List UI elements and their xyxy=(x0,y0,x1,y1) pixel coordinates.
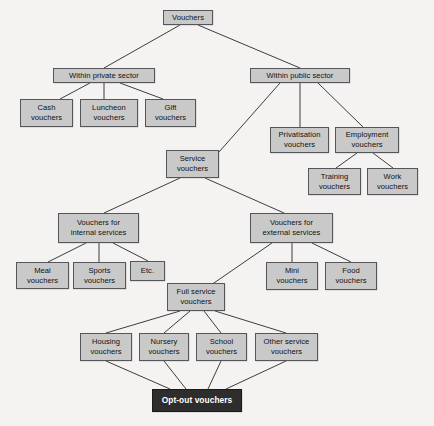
node-luncheon[interactable]: Luncheonvouchers xyxy=(80,99,138,127)
node-label-meal: Mealvouchers xyxy=(25,266,60,285)
edge-fullservice-to-housing xyxy=(106,311,180,333)
edge-service-to-external xyxy=(205,178,284,213)
edge-otherservice-to-optout xyxy=(226,361,286,389)
node-label-luncheon: Luncheonvouchers xyxy=(90,103,128,122)
node-fullservice[interactable]: Full servicevouchers xyxy=(167,283,225,311)
edge-housing-to-optout xyxy=(106,361,170,389)
node-meal[interactable]: Mealvouchers xyxy=(16,262,69,289)
node-food[interactable]: Foodvouchers xyxy=(325,262,377,290)
node-nursery[interactable]: Nurseryvouchers xyxy=(139,333,189,361)
node-label-otherservice: Other servicevouchers xyxy=(262,337,312,356)
node-mini[interactable]: Minivouchers xyxy=(266,262,318,290)
node-work[interactable]: Workvouchers xyxy=(367,168,418,195)
node-service[interactable]: Servicevouchers xyxy=(166,150,219,178)
edge-internal-to-etc xyxy=(113,243,148,261)
edge-employment-to-training xyxy=(336,153,357,168)
node-label-nursery: Nurseryvouchers xyxy=(146,337,181,356)
node-label-optout: Opt-out vouchers xyxy=(160,396,235,406)
node-label-public: Within public sector xyxy=(265,71,336,81)
node-label-housing: Housingvouchers xyxy=(88,337,123,356)
node-label-training: Trainingvouchers xyxy=(317,172,352,191)
edge-internal-to-meal xyxy=(48,243,86,262)
edge-private-to-cash xyxy=(60,83,90,99)
node-internal[interactable]: Vouchers forinternal services xyxy=(58,213,139,243)
diagram-canvas: VouchersWithin private sectorWithin publ… xyxy=(0,0,434,426)
node-label-food: Foodvouchers xyxy=(333,266,368,285)
edge-fullservice-to-nursery xyxy=(164,311,190,333)
node-privatisation[interactable]: Privatisationvouchers xyxy=(270,127,329,153)
edge-employment-to-work xyxy=(373,153,393,168)
node-employment[interactable]: Employmentvouchers xyxy=(335,127,399,153)
edge-school-to-optout xyxy=(208,361,221,389)
edge-private-to-gift xyxy=(120,83,163,99)
edge-fullservice-to-school xyxy=(204,311,221,333)
node-label-work: Workvouchers xyxy=(375,172,410,191)
node-public[interactable]: Within public sector xyxy=(250,68,350,83)
node-label-gift: Giftvouchers xyxy=(153,103,188,122)
node-label-service: Servicevouchers xyxy=(175,154,210,173)
edge-vouchers-to-public xyxy=(198,25,300,68)
edge-nursery-to-optout xyxy=(164,361,186,389)
node-housing[interactable]: Housingvouchers xyxy=(80,333,132,361)
node-label-mini: Minivouchers xyxy=(274,266,309,285)
node-training[interactable]: Trainingvouchers xyxy=(308,168,361,195)
node-label-school: Schoolvouchers xyxy=(204,337,239,356)
node-etc[interactable]: Etc. xyxy=(130,261,165,281)
node-cash[interactable]: Cashvouchers xyxy=(20,99,73,127)
node-label-employment: Employmentvouchers xyxy=(344,130,391,149)
node-label-vouchers: Vouchers xyxy=(170,13,206,23)
node-label-external: Vouchers forexternal services xyxy=(261,218,323,237)
node-label-cash: Cashvouchers xyxy=(29,103,64,122)
edge-service-to-internal xyxy=(104,178,180,213)
edge-external-to-fullservice xyxy=(211,243,272,285)
node-sports[interactable]: Sportsvouchers xyxy=(73,262,126,289)
node-label-privatisation: Privatisationvouchers xyxy=(276,130,322,149)
edge-external-to-food xyxy=(312,243,351,262)
node-otherservice[interactable]: Other servicevouchers xyxy=(255,333,318,361)
node-label-etc: Etc. xyxy=(139,266,156,276)
node-vouchers[interactable]: Vouchers xyxy=(163,10,213,25)
edge-public-to-employment xyxy=(318,83,363,127)
node-label-fullservice: Full servicevouchers xyxy=(175,287,218,306)
node-school[interactable]: Schoolvouchers xyxy=(196,333,247,361)
node-external[interactable]: Vouchers forexternal services xyxy=(250,213,333,243)
node-gift[interactable]: Giftvouchers xyxy=(145,99,196,127)
node-optout[interactable]: Opt-out vouchers xyxy=(152,389,242,412)
edge-vouchers-to-private xyxy=(104,25,180,68)
node-private[interactable]: Within private sector xyxy=(53,68,155,83)
node-label-sports: Sportsvouchers xyxy=(82,266,117,285)
node-label-private: Within private sector xyxy=(67,71,141,81)
edge-fullservice-to-otherservice xyxy=(215,311,286,333)
node-label-internal: Vouchers forinternal services xyxy=(69,218,129,237)
